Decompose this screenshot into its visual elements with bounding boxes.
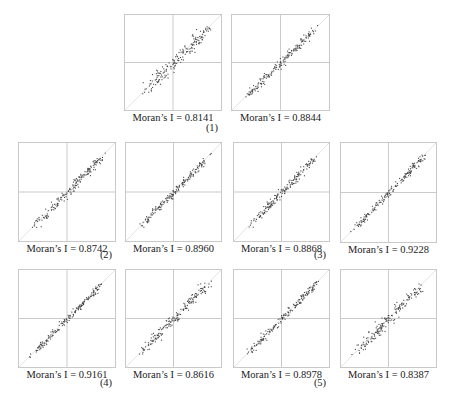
subfigure-group-label: (2) (91, 249, 121, 260)
subfigure-group-label: (1) (197, 122, 227, 133)
scatter-plot (340, 142, 437, 243)
scatter-plot (18, 142, 116, 242)
scatter-plot (340, 269, 437, 368)
figure-caption-faded (90, 388, 370, 398)
scatter-plot (233, 269, 330, 368)
morans-i-label: Moran’s I = 0.8616 (125, 369, 222, 380)
scatter-plot (233, 142, 330, 242)
scatter-plot (18, 269, 116, 368)
morans-i-label: Moran’s I = 0.8387 (340, 369, 437, 380)
morans-i-label: Moran’s I = 0.8844 (231, 112, 330, 123)
scatter-plot (124, 14, 222, 111)
subfigure-group-label: (4) (91, 377, 121, 388)
scatter-plot (125, 269, 222, 368)
scatter-plot (231, 14, 330, 111)
subfigure-group-label: (3) (305, 249, 335, 260)
scatter-plot (125, 142, 222, 242)
subfigure-group-label: (5) (305, 377, 335, 388)
morans-i-label: Moran’s I = 0.9228 (340, 244, 437, 255)
morans-i-label: Moran’s I = 0.8960 (125, 243, 222, 254)
